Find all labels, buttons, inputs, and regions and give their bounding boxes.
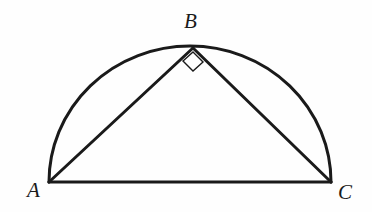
vertex-label-b: B [184,11,197,32]
geometry-figure: A B C [0,0,372,212]
segment-bc [193,48,331,182]
vertex-label-a: A [27,180,40,201]
segment-ab [49,48,193,182]
semicircle-arc [49,46,331,182]
vertex-label-c: C [338,182,352,203]
